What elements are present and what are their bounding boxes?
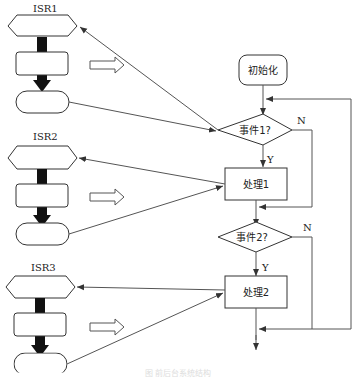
decision1-label: 事件1?	[239, 124, 271, 136]
main-flow: 初始化 事件1? N Y 处理1 事件2? N Y 处理2	[218, 55, 351, 350]
process1-label: 处理1	[243, 179, 269, 190]
decision2-label: 事件2?	[236, 231, 268, 243]
isr2-label: ISR2	[33, 131, 58, 142]
process2-label: 处理2	[243, 287, 269, 298]
decision2-yes-label: Y	[261, 262, 269, 273]
init-label: 初始化	[248, 64, 278, 76]
figure-caption: 图 前后台系统结构	[145, 368, 212, 378]
isr2-hollow-arrow-icon	[90, 189, 124, 205]
isr2-process-box	[16, 184, 68, 207]
isr3-group: ISR3	[6, 262, 124, 375]
isr1-group: ISR1	[8, 3, 124, 113]
isr1-hollow-arrow-icon	[90, 57, 124, 73]
decision1-yes-label: Y	[266, 154, 274, 165]
isr1-process-box	[16, 52, 68, 75]
isr3-process-box	[14, 313, 66, 336]
decision1-no-label: N	[297, 115, 306, 126]
isr3-end-terminal	[14, 353, 67, 375]
isr3-label: ISR3	[31, 262, 56, 273]
decision2-no-label: N	[303, 222, 312, 233]
isr1-end-terminal	[16, 91, 69, 113]
isr2-group: ISR2	[8, 131, 124, 245]
isr3-hollow-arrow-icon	[90, 319, 124, 335]
isr2-hexagon	[8, 146, 77, 169]
isr3-hexagon	[6, 276, 75, 298]
isr1-label: ISR1	[33, 3, 58, 14]
isr2-end-terminal	[16, 223, 69, 245]
isr1-arrowhead	[33, 80, 51, 92]
isr1-hexagon	[8, 15, 77, 36]
